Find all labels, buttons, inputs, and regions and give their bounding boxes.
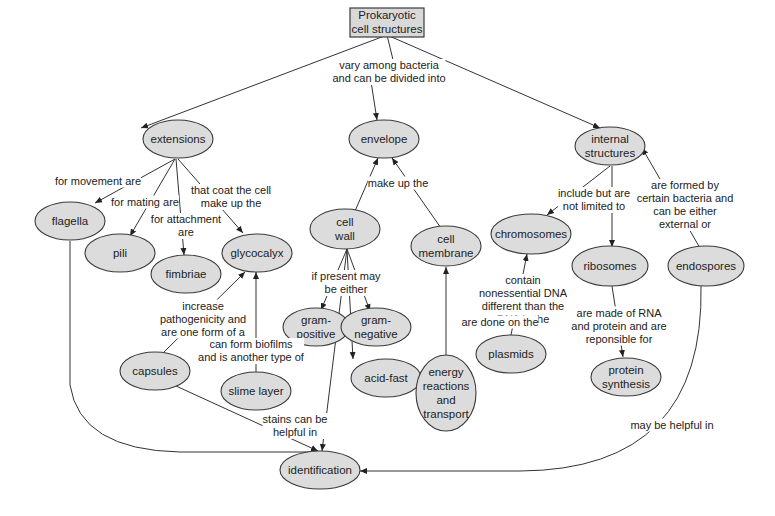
node-label-gram-positive: gram- positive xyxy=(297,313,336,341)
edge-cellwall-acidfast xyxy=(347,249,353,359)
node-label-endospores: endospores xyxy=(676,259,736,273)
node-label-energy-reactions: energy reactions and transport xyxy=(423,365,470,421)
link-label-may-be: may be helpful in xyxy=(630,419,713,432)
node-label-extensions: extensions xyxy=(151,132,206,146)
link-label-attachment: for attachment are xyxy=(151,213,221,239)
concept-map: Prokaryotic cell structures extensions e… xyxy=(0,0,775,516)
node-label-glycocalyx: glycocalyx xyxy=(230,246,283,260)
node-label-plasmids: plasmids xyxy=(488,347,533,361)
link-label-if-present: if present may be either xyxy=(311,270,380,296)
link-label-stains: stains can be helpful in xyxy=(263,413,328,439)
node-label-capsules: capsules xyxy=(132,364,177,378)
link-label-movement: for movement are xyxy=(55,175,141,188)
node-label-cell-membrane: cell membrane xyxy=(419,232,474,260)
link-label-done-on: are done on the xyxy=(461,316,538,329)
node-label-internal-structures: internal structures xyxy=(585,132,636,160)
link-label-biofilms: can form biofilms and is another type of xyxy=(198,338,304,364)
link-label-mating: for mating are xyxy=(111,196,179,209)
node-label-flagella: flagella xyxy=(52,214,88,228)
link-label-pathogenicity: increase pathogenicity and are one form … xyxy=(160,300,246,339)
link-label-make-up: make up the xyxy=(368,177,429,190)
node-label-ribosomes: ribosomes xyxy=(583,259,636,273)
node-label-pili: pili xyxy=(113,246,127,260)
node-label-protein-synthesis: protein synthesis xyxy=(602,363,650,391)
link-label-made-of: are made of RNA and protein and are repo… xyxy=(571,307,666,346)
link-label-formed: are formed by certain bacteria and can b… xyxy=(637,179,734,231)
node-label-identification: identification xyxy=(288,463,352,477)
node-label-root: Prokaryotic cell structures xyxy=(352,8,423,36)
node-label-gram-negative: gram- negative xyxy=(354,313,397,341)
node-label-cell-wall: cell wall xyxy=(335,215,355,243)
node-label-acid-fast: acid-fast xyxy=(364,371,407,385)
node-label-chromosomes: chromosomes xyxy=(495,227,567,241)
link-label-coat: that coat the cell make up the xyxy=(191,184,271,210)
node-label-slime-layer: slime layer xyxy=(229,384,284,398)
node-label-fimbriae: fimbriae xyxy=(166,267,207,281)
link-label-include: include but are not limited to xyxy=(558,187,630,213)
link-label-vary: vary among bacteria and can be divided i… xyxy=(332,59,445,85)
node-label-envelope: envelope xyxy=(361,132,408,146)
edge-cellmembrane-envelope xyxy=(392,158,441,228)
